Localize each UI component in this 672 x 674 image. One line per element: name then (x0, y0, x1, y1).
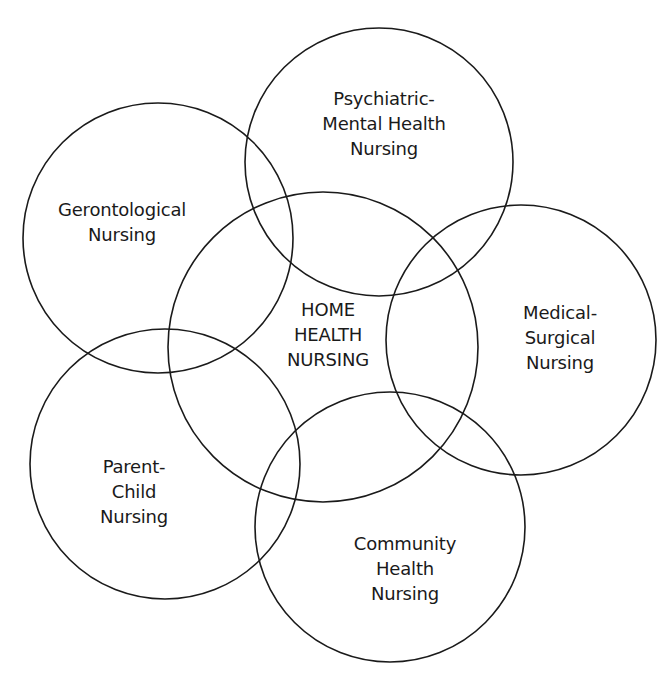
label-line: Nursing (100, 504, 168, 529)
label-line: Nursing (58, 222, 186, 247)
label-gerontological: Gerontological Nursing (58, 197, 186, 247)
label-line: Nursing (354, 581, 456, 606)
label-medical-surgical: Medical- Surgical Nursing (523, 300, 597, 375)
label-parent-child: Parent- Child Nursing (100, 454, 168, 529)
label-line: Surgical (523, 325, 597, 350)
label-line: HOME (287, 297, 369, 322)
label-line: Parent- (100, 454, 168, 479)
label-line: Psychiatric- (322, 86, 445, 111)
label-home-health: HOME HEALTH NURSING (287, 297, 369, 372)
label-psychiatric-mental-health: Psychiatric- Mental Health Nursing (322, 86, 445, 161)
label-line: Community (354, 531, 456, 556)
label-line: Child (100, 479, 168, 504)
circle-psychiatric-mental-health (245, 28, 513, 296)
label-line: HEALTH (287, 322, 369, 347)
label-line: Gerontological (58, 197, 186, 222)
label-line: Medical- (523, 300, 597, 325)
label-line: Mental Health (322, 111, 445, 136)
label-line: NURSING (287, 347, 369, 372)
label-line: Health (354, 556, 456, 581)
label-line: Nursing (322, 136, 445, 161)
diagram-canvas: HOME HEALTH NURSING Gerontological Nursi… (0, 0, 672, 674)
label-community-health: Community Health Nursing (354, 531, 456, 606)
circle-medical-surgical (386, 205, 656, 475)
label-line: Nursing (523, 350, 597, 375)
